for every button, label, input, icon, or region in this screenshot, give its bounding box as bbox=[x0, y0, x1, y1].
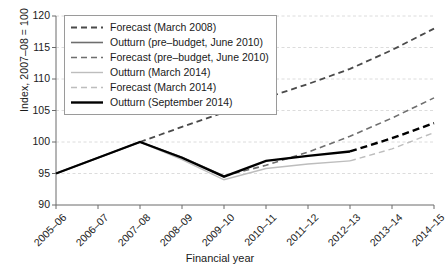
legend-item: Outturn (pre–budget, June 2010) bbox=[70, 35, 269, 50]
legend-label: Outturn (pre–budget, June 2010) bbox=[110, 37, 263, 48]
legend-label: Outturn (September 2014) bbox=[110, 97, 233, 108]
x-axis-title: Financial year bbox=[0, 252, 440, 264]
legend-label: Forecast (March 2008) bbox=[110, 22, 216, 33]
legend-swatch-icon bbox=[70, 67, 104, 78]
legend-item: Outturn (March 2014) bbox=[70, 65, 269, 80]
series-line bbox=[56, 142, 350, 180]
chart-legend: Forecast (March 2008)Outturn (pre–budget… bbox=[64, 15, 277, 115]
legend-item: Forecast (March 2008) bbox=[70, 20, 269, 35]
legend-swatch-icon bbox=[70, 97, 104, 108]
legend-swatch-icon bbox=[70, 52, 104, 63]
legend-item: Forecast (March 2014) bbox=[70, 80, 269, 95]
y-axis-title: Index, 2007–08 = 100 bbox=[18, 0, 30, 140]
legend-swatch-icon bbox=[70, 82, 104, 93]
y-axis-tick-label: 90 bbox=[16, 198, 50, 210]
series-line bbox=[56, 142, 224, 176]
legend-label: Forecast (March 2014) bbox=[110, 82, 216, 93]
legend-item: Outturn (September 2014) bbox=[70, 95, 269, 110]
legend-swatch-icon bbox=[70, 22, 104, 33]
series-line bbox=[56, 142, 350, 177]
legend-swatch-icon bbox=[70, 37, 104, 48]
y-axis-tick-label: 95 bbox=[16, 167, 50, 179]
legend-label: Forecast (pre–budget, June 2010) bbox=[110, 52, 269, 63]
legend-label: Outturn (March 2014) bbox=[110, 67, 210, 78]
legend-item: Forecast (pre–budget, June 2010) bbox=[70, 50, 269, 65]
